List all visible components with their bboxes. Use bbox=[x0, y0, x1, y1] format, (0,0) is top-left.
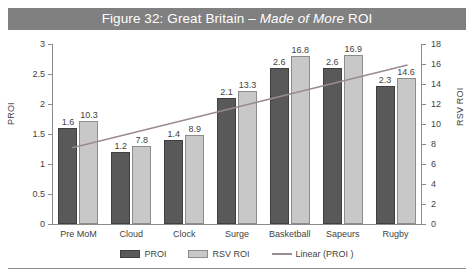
bar-value-label: 2.6 bbox=[273, 57, 286, 67]
bar-pair: 1.27.8 bbox=[105, 44, 158, 224]
bar-value-label: 1.6 bbox=[62, 117, 75, 127]
y-axis-right-tick bbox=[422, 104, 426, 105]
y-axis-right-tick bbox=[422, 44, 426, 45]
bar-value-label: 2.6 bbox=[326, 57, 339, 67]
bar-value-label: 16.9 bbox=[344, 44, 362, 54]
x-axis-category-label: Cloud bbox=[105, 228, 158, 242]
bar-value-label: 1.2 bbox=[115, 141, 128, 151]
chart-legend: PROIRSV ROILinear (PROI ) bbox=[0, 249, 474, 259]
bar-proi[interactable]: 1.2 bbox=[111, 152, 130, 224]
bar-rsv-roi[interactable]: 16.9 bbox=[344, 55, 363, 224]
figure-title-prefix: Figure 32: Great Britain – bbox=[102, 11, 260, 26]
y-axis-right-tick bbox=[422, 144, 426, 145]
y-axis-left-tick-label: 3 bbox=[40, 39, 45, 49]
y-axis-right-tick-label: 4 bbox=[431, 179, 436, 189]
x-axis-category-label: Clock bbox=[158, 228, 211, 242]
bar-value-label: 13.3 bbox=[239, 80, 257, 90]
legend-label: Linear (PROI ) bbox=[296, 249, 354, 259]
figure-title: Figure 32: Great Britain – Made of More … bbox=[8, 8, 466, 30]
bar-value-label: 2.1 bbox=[220, 87, 233, 97]
bar-proi[interactable]: 2.6 bbox=[270, 68, 289, 224]
bar-pair: 2.113.3 bbox=[211, 44, 264, 224]
bar-group: 2.616.9 bbox=[316, 44, 369, 224]
bar-rsv-roi[interactable]: 13.3 bbox=[238, 91, 257, 224]
y-axis-left-tick-label: 1.5 bbox=[32, 129, 45, 139]
bar-value-label: 10.3 bbox=[80, 110, 98, 120]
legend-swatch-rsv bbox=[188, 250, 208, 258]
x-axis-category-label: Basketball bbox=[263, 228, 316, 242]
y-axis-right-tick-label: 16 bbox=[431, 59, 441, 69]
bar-proi[interactable]: 1.4 bbox=[164, 140, 183, 224]
figure-container: Figure 32: Great Britain – Made of More … bbox=[0, 0, 474, 277]
legend-item[interactable]: PROI bbox=[120, 249, 166, 259]
bar-group: 2.113.3 bbox=[211, 44, 264, 224]
bar-rsv-roi[interactable]: 7.8 bbox=[132, 146, 151, 224]
x-axis-category-labels: Pre MoMCloudClockSurgeBasketballSapeursR… bbox=[52, 228, 422, 242]
y-axis-right-tick-label: 2 bbox=[431, 199, 436, 209]
y-axis-right-tick-label: 6 bbox=[431, 159, 436, 169]
y-axis-left-tick-label: 0 bbox=[40, 219, 45, 229]
y-axis-right-tick-label: 14 bbox=[431, 79, 441, 89]
x-axis-category-label: Sapeurs bbox=[316, 228, 369, 242]
y-axis-right-tick bbox=[422, 124, 426, 125]
bar-value-label: 7.8 bbox=[136, 135, 149, 145]
bar-value-label: 1.4 bbox=[167, 129, 180, 139]
y-axis-right-tick-label: 18 bbox=[431, 39, 441, 49]
bar-rsv-roi[interactable]: 10.3 bbox=[79, 121, 98, 224]
y-axis-left-tick bbox=[48, 224, 52, 225]
bar-value-label: 14.6 bbox=[397, 67, 415, 77]
bar-pair: 1.610.3 bbox=[52, 44, 105, 224]
bar-proi[interactable]: 1.6 bbox=[58, 128, 77, 224]
y-axis-right-tick bbox=[422, 184, 426, 185]
figure-title-emphasis: Made of More bbox=[260, 11, 345, 26]
bar-rsv-roi[interactable]: 16.8 bbox=[291, 56, 310, 224]
legend-label: PROI bbox=[144, 249, 166, 259]
y-axis-right-tick-label: 0 bbox=[431, 219, 436, 229]
bar-value-label: 2.3 bbox=[379, 75, 392, 85]
bar-pair: 2.314.6 bbox=[369, 44, 422, 224]
legend-item[interactable]: Linear (PROI ) bbox=[272, 249, 354, 259]
bar-pair: 1.48.9 bbox=[158, 44, 211, 224]
bar-value-label: 8.9 bbox=[188, 124, 201, 134]
y-axis-right-tick-label: 12 bbox=[431, 99, 441, 109]
y-axis-right-tick bbox=[422, 204, 426, 205]
bar-groups: 1.610.31.27.81.48.92.113.32.616.82.616.9… bbox=[52, 44, 422, 224]
bar-rsv-roi[interactable]: 14.6 bbox=[397, 78, 416, 224]
figure-title-suffix: ROI bbox=[344, 11, 372, 26]
x-axis-line bbox=[52, 224, 422, 225]
legend-item[interactable]: RSV ROI bbox=[188, 249, 249, 259]
x-axis-category-label: Pre MoM bbox=[52, 228, 105, 242]
y-axis-right-tick-label: 8 bbox=[431, 139, 436, 149]
plot-area: 00.511.522.53 024681012141618 1.610.31.2… bbox=[52, 44, 422, 224]
bar-group: 2.616.8 bbox=[263, 44, 316, 224]
y-axis-left-tick-label: 2.5 bbox=[32, 69, 45, 79]
bar-group: 1.27.8 bbox=[105, 44, 158, 224]
y-axis-right-tick bbox=[422, 224, 426, 225]
y-axis-right-tick-label: 10 bbox=[431, 119, 441, 129]
y-axis-right-title: RSV ROI bbox=[455, 88, 465, 126]
y-axis-right-tick bbox=[422, 64, 426, 65]
x-axis-category-label: Surge bbox=[211, 228, 264, 242]
bottom-divider bbox=[8, 268, 466, 269]
bar-value-label: 16.8 bbox=[292, 45, 310, 55]
legend-label: RSV ROI bbox=[212, 249, 249, 259]
y-axis-left-tick-label: 0.5 bbox=[32, 189, 45, 199]
bar-proi[interactable]: 2.3 bbox=[376, 86, 395, 224]
y-axis-left-tick-label: 2 bbox=[40, 99, 45, 109]
bar-group: 2.314.6 bbox=[369, 44, 422, 224]
bar-pair: 2.616.8 bbox=[263, 44, 316, 224]
y-axis-right-tick bbox=[422, 84, 426, 85]
bar-pair: 2.616.9 bbox=[316, 44, 369, 224]
bar-rsv-roi[interactable]: 8.9 bbox=[185, 135, 204, 224]
bar-proi[interactable]: 2.6 bbox=[323, 68, 342, 224]
x-axis-category-label: Rugby bbox=[369, 228, 422, 242]
bar-group: 1.610.3 bbox=[52, 44, 105, 224]
bar-proi[interactable]: 2.1 bbox=[217, 98, 236, 224]
y-axis-right-tick bbox=[422, 164, 426, 165]
bar-group: 1.48.9 bbox=[158, 44, 211, 224]
legend-swatch-proi bbox=[120, 250, 140, 258]
y-axis-left-tick-label: 1 bbox=[40, 159, 45, 169]
y-axis-left-title: PROI bbox=[6, 102, 16, 125]
legend-swatch-line bbox=[272, 253, 292, 255]
